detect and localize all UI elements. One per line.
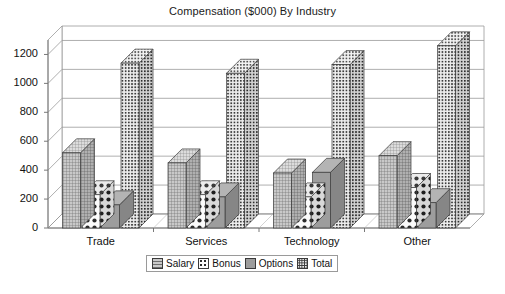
legend-label-total: Total [311,258,332,269]
chart-container: Compensation ($000) By Industry [0,0,505,294]
legend-item-total: Total [297,258,332,269]
legend-item-salary: Salary [152,258,194,269]
legend-swatch-options [245,258,256,269]
legend-label-salary: Salary [166,258,194,269]
legend-swatch-bonus [198,258,209,269]
chart-legend: Salary Bonus Options Total [146,255,338,272]
legend-swatch-salary [152,258,163,269]
y-axis-tick-label: 200 [4,193,38,204]
x-axis-tick-label: Technology [259,236,365,247]
x-axis-tick-label: Other [365,236,471,247]
legend-label-bonus: Bonus [212,258,240,269]
y-axis-tick-label: 400 [4,164,38,175]
legend-label-options: Options [259,258,293,269]
x-axis-tick-label: Services [154,236,260,247]
y-axis-tick-label: 600 [4,135,38,146]
legend-item-options: Options [245,258,293,269]
legend-item-bonus: Bonus [198,258,240,269]
chart-plot-area [0,0,505,294]
y-axis-tick-label: 1200 [4,48,38,59]
legend-swatch-total [297,258,308,269]
x-axis-tick-label: Trade [48,236,154,247]
y-axis-tick-label: 800 [4,106,38,117]
y-axis-tick-label: 1000 [4,77,38,88]
y-axis-tick-label: 0 [4,222,38,233]
